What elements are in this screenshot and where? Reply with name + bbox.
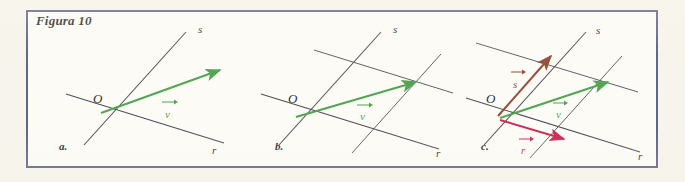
- line-s: s: [84, 23, 202, 145]
- line-s-label: s: [393, 23, 397, 35]
- vector-r-label: r: [521, 144, 526, 156]
- line-r: r: [466, 98, 643, 162]
- panel-b-letter: b.: [275, 140, 283, 152]
- vector-v-label: v: [360, 110, 365, 122]
- grid-line-parallel-r: [314, 50, 453, 93]
- panel-a: s r O v: [26, 10, 238, 168]
- vector-v-label: v: [556, 108, 561, 120]
- vector-s-label: s: [513, 78, 517, 90]
- line-r-label: r: [436, 147, 441, 159]
- grid-line-parallel-s: [352, 54, 441, 153]
- panel-a-letter: a.: [59, 140, 67, 152]
- line-s: s: [279, 23, 397, 145]
- line-r-label: r: [212, 144, 217, 156]
- grid-line-parallel-r: [476, 43, 638, 92]
- line-r: r: [66, 94, 224, 156]
- figure-root: Figura 10 s r O v: [0, 0, 685, 182]
- vector-s: s: [498, 56, 551, 116]
- line-s: s: [484, 24, 600, 145]
- line-s-label: s: [596, 24, 600, 36]
- origin-label: O: [486, 91, 496, 106]
- panel-c-letter: c.: [481, 140, 489, 152]
- vector-v: v: [101, 70, 220, 120]
- vector-v-label: v: [165, 108, 170, 120]
- line-s-label: s: [198, 23, 202, 35]
- origin-label: O: [288, 91, 298, 106]
- origin-label: O: [93, 91, 103, 106]
- line-r-label: r: [638, 150, 643, 162]
